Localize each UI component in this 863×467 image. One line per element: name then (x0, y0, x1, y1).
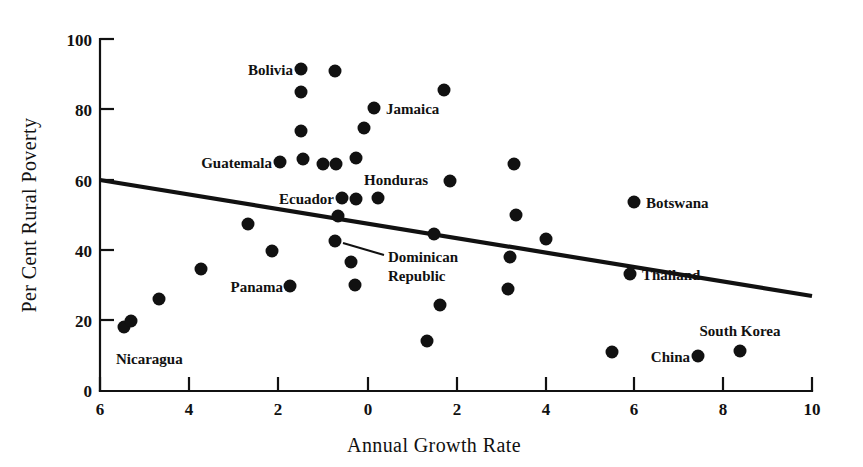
data-point[interactable] (297, 153, 310, 166)
data-point-dominican-republic[interactable] (329, 235, 342, 248)
y-tick-label-20: 20 (75, 312, 92, 331)
data-point[interactable] (295, 125, 308, 138)
y-tick-label-80: 80 (75, 101, 92, 120)
data-point-thailand[interactable] (624, 268, 637, 281)
x-tick-label-4: 4 (542, 400, 551, 419)
x-tick-label-0: 0 (364, 400, 373, 419)
label-thailand: Thailand (642, 267, 701, 283)
data-point[interactable] (350, 193, 363, 206)
x-axis-title: Annual Growth Rate (347, 434, 521, 456)
data-point[interactable] (606, 346, 619, 359)
data-point[interactable] (330, 158, 343, 171)
data-point[interactable] (372, 192, 385, 205)
x-axis: 6 4 2 0 2 4 6 8 10 (96, 377, 821, 419)
data-point[interactable] (504, 251, 517, 264)
point-labels: Nicaragua Panama Bolivia Guatemala Ecuad… (116, 62, 781, 367)
data-point[interactable] (125, 315, 138, 328)
data-point[interactable] (349, 279, 362, 292)
y-tick-label-100: 100 (67, 31, 93, 50)
x-tick-label-neg4: 4 (185, 400, 194, 419)
label-china: China (651, 349, 691, 365)
scatter-chart: 100 80 60 40 20 0 6 4 2 0 2 4 6 8 (0, 0, 863, 467)
y-tick-label-0: 0 (84, 382, 93, 401)
y-axis: 100 80 60 40 20 0 (67, 31, 115, 401)
label-dominican-republic-line2: Republic (388, 268, 446, 284)
data-point[interactable] (153, 293, 166, 306)
label-bolivia: Bolivia (248, 62, 294, 78)
x-tick-label-10: 10 (804, 400, 821, 419)
data-point[interactable] (317, 158, 330, 171)
data-point[interactable] (510, 209, 523, 222)
data-point[interactable] (266, 245, 279, 258)
data-point-botswana[interactable] (628, 196, 641, 209)
data-point[interactable] (295, 86, 308, 99)
x-tick-label-6: 6 (630, 400, 639, 419)
data-point[interactable] (329, 65, 342, 78)
dominican-republic-leader-line (343, 243, 384, 255)
data-point[interactable] (345, 256, 358, 269)
data-point-south-korea[interactable] (734, 345, 747, 358)
data-point-jamaica[interactable] (368, 102, 381, 115)
data-point-honduras[interactable] (350, 152, 363, 165)
label-guatemala: Guatemala (201, 155, 272, 171)
x-tick-label-8: 8 (719, 400, 728, 419)
label-south-korea: South Korea (700, 323, 781, 339)
label-ecuador: Ecuador (279, 191, 334, 207)
data-point[interactable] (332, 210, 345, 223)
data-point[interactable] (242, 218, 255, 231)
data-point-panama[interactable] (284, 280, 297, 293)
label-dominican-republic-line1: Dominican (388, 249, 459, 265)
data-point[interactable] (428, 228, 441, 241)
data-point[interactable] (508, 158, 521, 171)
data-point[interactable] (195, 263, 208, 276)
y-tick-label-40: 40 (75, 242, 92, 261)
chart-canvas: 100 80 60 40 20 0 6 4 2 0 2 4 6 8 (0, 0, 863, 467)
label-panama: Panama (231, 279, 284, 295)
data-point-ecuador[interactable] (336, 192, 349, 205)
label-nicaragua: Nicaragua (116, 351, 183, 367)
data-point[interactable] (444, 175, 457, 188)
data-point-guatemala[interactable] (274, 156, 287, 169)
data-point[interactable] (434, 299, 447, 312)
data-point[interactable] (502, 283, 515, 296)
x-tick-label-2: 2 (453, 400, 462, 419)
y-tick-label-60: 60 (75, 172, 92, 191)
data-point[interactable] (540, 233, 553, 246)
y-axis-title: Per Cent Rural Poverty (18, 118, 41, 313)
label-honduras: Honduras (364, 172, 428, 188)
data-point[interactable] (358, 122, 371, 135)
data-point[interactable] (421, 335, 434, 348)
x-tick-label-neg6: 6 (96, 400, 105, 419)
label-jamaica: Jamaica (386, 101, 440, 117)
data-point-china[interactable] (692, 350, 705, 363)
data-point[interactable] (438, 84, 451, 97)
x-tick-label-neg2: 2 (274, 400, 283, 419)
data-point-bolivia[interactable] (295, 63, 308, 76)
label-botswana: Botswana (646, 195, 709, 211)
